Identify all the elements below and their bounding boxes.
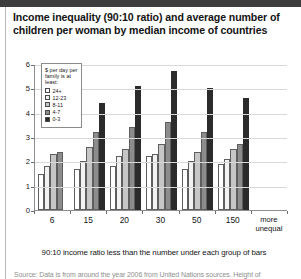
legend-swatch-icon [45, 102, 50, 107]
y-tick-mark [31, 114, 34, 115]
y-tick-mark [31, 65, 34, 66]
x-axis-caption: 90:10 income ratio less than the number … [14, 248, 294, 257]
x-tick-mark [106, 211, 107, 214]
x-tick-label-line1: more [255, 215, 282, 224]
x-tick-mark [287, 211, 288, 214]
x-tick-label: 50 [192, 215, 201, 225]
x-tick-label: 30 [156, 215, 165, 225]
source-note: Source: Data is from around the year 200… [14, 271, 299, 279]
x-tick-mark [142, 211, 143, 214]
x-tick-mark [70, 211, 71, 214]
y-tick-mark [31, 187, 34, 188]
legend-item: 12-23 [45, 95, 78, 101]
legend-swatch-icon [45, 117, 50, 122]
bar [243, 98, 249, 210]
x-tick-mark [215, 211, 216, 214]
x-tick-label-line2: unequal [255, 224, 282, 233]
legend-swatch-icon [45, 110, 50, 115]
y-tick-label: 3 [18, 133, 30, 142]
top-band [0, 0, 301, 7]
x-tick-mark [34, 211, 35, 214]
bar [171, 71, 177, 210]
y-tick-label: 5 [18, 84, 30, 93]
legend-item-label: 24+ [53, 88, 62, 94]
x-tick-label: 15 [84, 215, 93, 225]
y-tick-label: 1 [18, 182, 30, 191]
legend-item: 8-11 [45, 102, 78, 108]
gridline [35, 187, 287, 188]
legend-swatch-icon [45, 88, 50, 93]
legend-item: 4-7 [45, 109, 78, 115]
bar [207, 88, 213, 210]
legend: $ per day per family is at least: 24+12-… [41, 63, 82, 128]
legend-item-label: 0-3 [53, 116, 61, 122]
bar [135, 86, 141, 210]
chart-page: Income inequality (90:10 ratio) and aver… [0, 0, 301, 279]
legend-swatch-icon [45, 95, 50, 100]
y-tick-label: 6 [18, 60, 30, 69]
chart-title: Income inequality (90:10 ratio) and aver… [13, 11, 291, 37]
x-tick-label: 20 [120, 215, 129, 225]
x-tick-mark [179, 211, 180, 214]
y-tick-label: 4 [18, 109, 30, 118]
bar [57, 152, 63, 210]
x-axis: 615203050150moreunequal [34, 211, 287, 233]
x-tick-label: 150 [226, 215, 240, 225]
y-tick-mark [31, 138, 34, 139]
legend-title: $ per day per family is at least: [45, 67, 78, 86]
gridline [35, 162, 287, 163]
y-tick-mark [31, 89, 34, 90]
y-tick-mark [31, 162, 34, 163]
legend-item-label: 4-7 [53, 109, 61, 115]
legend-item: 24+ [45, 88, 78, 94]
legend-item-label: 8-11 [53, 102, 63, 108]
legend-item-label: 12-23 [53, 95, 67, 101]
y-tick-label: 2 [18, 157, 30, 166]
x-tick-label: moreunequal [255, 215, 282, 234]
bar [99, 103, 105, 210]
gridline [35, 138, 287, 139]
legend-item: 0-3 [45, 116, 78, 122]
legend-items: 24+12-238-114-70-3 [45, 88, 78, 123]
x-tick-mark [251, 211, 252, 214]
y-tick-label: 0 [18, 206, 30, 215]
x-tick-label: 6 [50, 215, 55, 225]
